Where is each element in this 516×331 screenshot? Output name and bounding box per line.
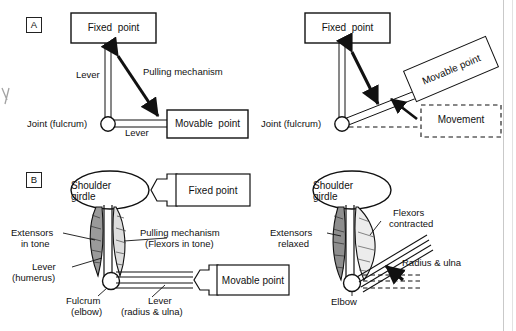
panelB-left-shoulder-girdle-line1: Shoulder [71,180,149,191]
panelA-left-movable-point-label: Movable point [167,118,248,129]
figure-canvas: A B Fixed point Movable point Lever Leve… [0,0,516,331]
panelA-right-joint-label: Joint (fulcrum) [261,119,321,130]
panelB-left-lever-radius-ulna-line1: Lever [148,296,172,307]
panelB-right-shoulder-girdle-line1: Shoulder [313,180,391,191]
panelB-left-shoulder-girdle-line2: girdle [71,191,149,202]
panelB-right-elbow-label: Elbow [331,297,357,308]
page-border-rules [504,0,513,331]
panelA-left-lever-vertical-label: Lever [76,70,100,81]
panelB-left-lever-humerus-line1: Lever [32,262,56,273]
panelB-right-extensors-line1: Extensors [270,228,312,239]
panelB-right-flexors-line1: Flexors [393,208,424,219]
panelB-right-radius-ulna-label: Radius & ulna [402,258,461,269]
panelA-right-fixed-point-label: Fixed point [305,22,390,33]
panelB-left-fulcrum-line2: (elbow) [71,307,102,318]
panelA-left-joint-label: Joint (fulcrum) [27,119,87,130]
panelB-left-fulcrum-line1: Fulcrum [66,296,100,307]
panel-tag-a: A [26,17,42,33]
panelB-left-fixed-point-label: Fixed point [176,185,250,196]
panelB-left-pulling-line2: (Flexors in tone) [145,239,214,250]
panelB-left-movable-point-label: Movable point [217,275,289,286]
panelB-right-shoulder-girdle-line2: girdle [313,191,391,202]
panelA-right-movement-label: Movement [421,114,501,125]
panelB-right-extensors-line2: relaxed [278,239,309,250]
margin-clipped-glyph [2,88,9,104]
panelB-left-lever-humerus-line2: (humerus) [12,273,55,284]
panelB-left-lever-radius-ulna-line2: (radius & ulna) [121,307,183,318]
panelA-left-lever-horizontal-label: Lever [125,128,149,139]
panelB-left-pulling-line1: Pulling mechanism [140,228,220,239]
panelB-left-extensors-line2: in tone [21,239,50,250]
panelA-left-fixed-point-label: Fixed point [71,22,156,33]
panelB-left-extensors-line1: Extensors [11,228,53,239]
panelA-left-pulling-mechanism-label: Pulling mechanism [143,67,223,78]
panel-tag-b: B [26,172,42,188]
panelB-right-flexors-line2: contracted [389,219,433,230]
